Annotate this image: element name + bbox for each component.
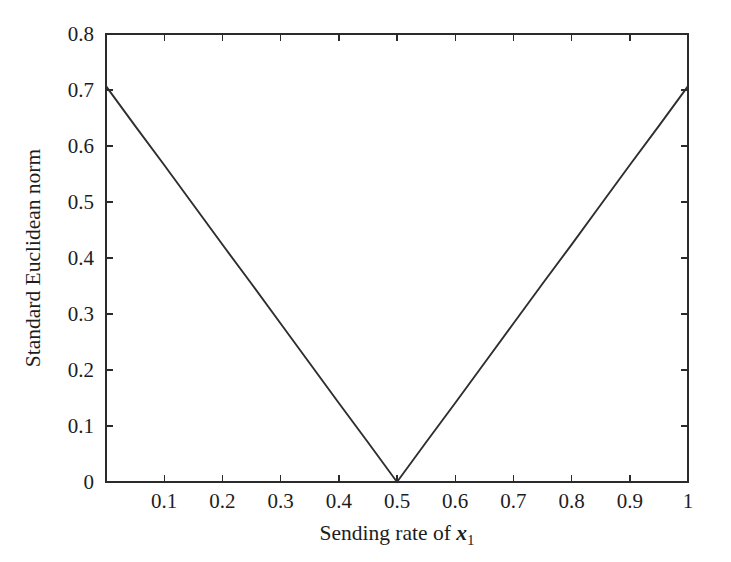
x-tick-label: 0.6 [442, 489, 468, 513]
x-axis-title: Sending rate of x1 [320, 521, 475, 548]
x-tick-label: 0.2 [209, 489, 235, 513]
y-axis-title: Standard Euclidean norm [21, 148, 45, 367]
x-tick-label: 0.4 [326, 489, 353, 513]
x-tick-label: 0.3 [267, 489, 293, 513]
x-tick-label: 0.5 [384, 489, 410, 513]
x-tick-label: 0.1 [151, 489, 177, 513]
y-tick-label: 0.3 [68, 302, 94, 326]
y-tick-label: 0 [84, 470, 95, 494]
chart-plot: 0.10.20.30.40.50.60.70.80.91 00.10.20.30… [0, 0, 731, 562]
data-series-group [106, 86, 688, 482]
x-tick-label: 0.8 [558, 489, 584, 513]
x-axis-title-subscript: 1 [467, 532, 475, 548]
x-tick-label: 0.9 [617, 489, 643, 513]
x-tick-label: 1 [683, 489, 694, 513]
y-axis-tick-labels: 00.10.20.30.40.50.60.70.8 [68, 22, 95, 494]
y-tick-label: 0.2 [68, 358, 94, 382]
y-tick-label: 0.7 [68, 78, 94, 102]
x-axis-title-variable: x [455, 521, 467, 545]
y-tick-label: 0.6 [68, 134, 94, 158]
x-tick-label: 0.7 [500, 489, 526, 513]
figure-canvas: 0.10.20.30.40.50.60.70.80.91 00.10.20.30… [0, 0, 731, 562]
y-tick-label: 0.5 [68, 190, 94, 214]
series-line-standard-euclidean-norm [106, 86, 688, 482]
y-tick-label: 0.4 [68, 246, 95, 270]
x-axis-tick-marks-top [164, 34, 630, 41]
plot-box-border [106, 34, 688, 482]
y-tick-label: 0.8 [68, 22, 94, 46]
x-axis-tick-labels: 0.10.20.30.40.50.60.70.80.91 [151, 489, 693, 513]
y-tick-label: 0.1 [68, 414, 94, 438]
x-axis-title-text: Sending rate of [320, 521, 457, 545]
y-axis-tick-marks-left [106, 90, 113, 426]
y-axis-tick-marks-right [681, 90, 688, 426]
axes-frame [106, 34, 688, 482]
